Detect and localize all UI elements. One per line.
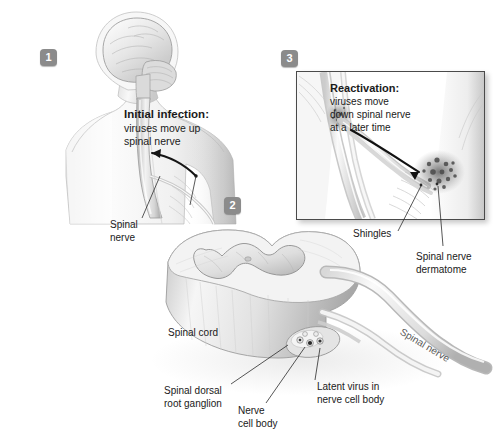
- step-badge-3: 3: [281, 50, 298, 67]
- latent-virus-dot: [318, 339, 321, 342]
- callout-reactivation-line3: at a later time: [330, 121, 411, 134]
- shingles-rash: [413, 150, 465, 194]
- arrow-reactivation: [351, 130, 419, 172]
- label-spinal-nerve-panel1-line1: Spinal: [110, 219, 138, 230]
- label-shingles: Shingles: [353, 228, 391, 241]
- step-badge-2: 2: [224, 197, 241, 214]
- label-nerve-cell-body-line2: cell body: [238, 418, 277, 429]
- label-nerve-cell-body: Nerve cell body: [238, 405, 277, 430]
- label-nerve-cell-body-line1: Nerve: [238, 405, 265, 416]
- latent-virus-dot: [299, 339, 302, 342]
- label-latent-line2: nerve cell body: [317, 394, 384, 405]
- label-ganglion-line2: root ganglion: [164, 398, 222, 409]
- callout-reactivation: Reactivation: viruses move down spinal n…: [330, 82, 411, 134]
- label-spinal-cord: Spinal cord: [168, 327, 218, 340]
- callout-reactivation-heading: Reactivation:: [330, 82, 411, 95]
- shingles-diagram: 1 2 3: [0, 0, 502, 448]
- label-dermatome-line1: Spinal nerve: [416, 251, 472, 262]
- label-latent-line1: Latent virus in: [317, 381, 379, 392]
- label-spinal-nerve-panel1-line2: nerve: [110, 232, 135, 243]
- step-badge-1: 1: [40, 49, 57, 66]
- label-spinal-dorsal-root-ganglion: Spinal dorsal root ganglion: [164, 385, 222, 410]
- label-spinal-nerve-dermatome: Spinal nerve dermatome: [416, 251, 472, 276]
- anatomy-illustration: [0, 0, 502, 448]
- callout-reactivation-line1: viruses move: [330, 95, 411, 108]
- callout-initial-heading: Initial infection:: [124, 108, 209, 122]
- label-ganglion-line1: Spinal dorsal: [164, 385, 222, 396]
- latent-virus-dot: [308, 341, 312, 345]
- callout-initial-line1: viruses move up: [124, 122, 209, 136]
- label-spinal-nerve-panel1: Spinal nerve: [110, 219, 138, 244]
- callout-initial-line2: spinal nerve: [124, 135, 209, 149]
- callout-reactivation-line2: down spinal nerve: [330, 108, 411, 121]
- label-latent-virus: Latent virus in nerve cell body: [317, 381, 384, 406]
- callout-initial-infection: Initial infection: viruses move up spina…: [124, 108, 209, 149]
- label-dermatome-line2: dermatome: [416, 264, 467, 275]
